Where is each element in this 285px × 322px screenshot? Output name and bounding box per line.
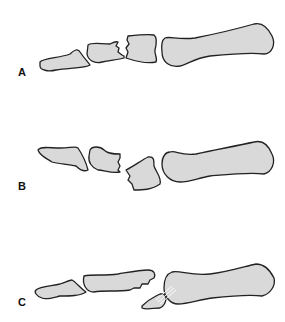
panel-c: C	[0, 210, 285, 322]
panel-label-a: A	[18, 66, 26, 78]
metacarpal	[162, 24, 274, 67]
bones-diagram-b	[0, 100, 285, 210]
panel-label-b: B	[18, 180, 26, 192]
metacarpal	[164, 264, 274, 304]
bones-diagram-c	[0, 210, 285, 322]
bones-diagram-a	[0, 0, 285, 100]
middle-phalanx	[89, 147, 120, 173]
metacarpal	[162, 142, 274, 183]
panel-a: A	[0, 0, 285, 100]
distal-phalanx	[38, 147, 88, 171]
panel-label-c: C	[18, 296, 26, 308]
proximal-phalanx-fragment	[126, 35, 157, 63]
panel-b: B	[0, 100, 285, 210]
middle-phalanx	[87, 42, 124, 63]
distal-phalanx	[40, 50, 90, 71]
middle-phalanx	[83, 270, 154, 292]
proximal-phalanx-fragment	[126, 157, 160, 190]
distal-phalanx	[35, 280, 86, 299]
